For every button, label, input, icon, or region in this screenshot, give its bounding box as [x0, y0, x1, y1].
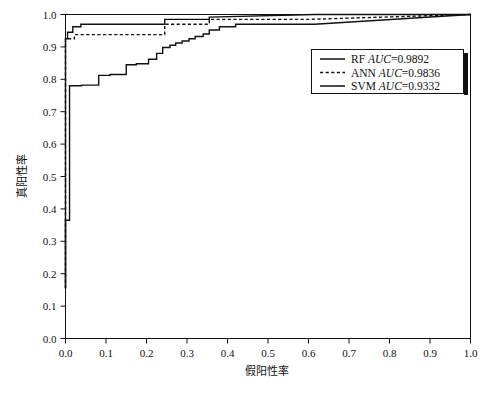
y-tick-label: 0.5	[43, 171, 57, 183]
chart-canvas: 0.00.10.20.30.40.50.60.70.80.91.0 0.00.1…	[0, 0, 502, 394]
legend-items: RF AUC=0.9892ANN AUC=0.9836SVM AUC=0.933…	[320, 53, 440, 92]
x-axis-title: 假阳性率	[245, 364, 289, 378]
x-tick-label: 1.0	[464, 347, 478, 359]
x-tick-label: 0.6	[302, 347, 316, 359]
x-tick-label: 0.3	[180, 347, 194, 359]
y-tick-label: 0.8	[43, 73, 57, 85]
y-tick-label: 0.4	[43, 203, 57, 215]
y-axis-title: 真阳性率	[15, 154, 29, 198]
x-axis-ticks: 0.00.10.20.30.40.50.60.70.80.91.0	[59, 339, 478, 359]
x-tick-label: 0.0	[59, 347, 73, 359]
y-axis-ticks: 0.00.10.20.30.40.50.60.70.80.91.0	[43, 9, 66, 345]
x-tick-label: 0.7	[342, 347, 356, 359]
x-tick-label: 0.4	[221, 347, 235, 359]
x-tick-label: 0.9	[423, 347, 437, 359]
x-tick-label: 0.8	[383, 347, 397, 359]
y-tick-label: 0.9	[43, 41, 57, 53]
x-tick-label: 0.2	[140, 347, 154, 359]
chart-legend: RF AUC=0.9892ANN AUC=0.9836SVM AUC=0.933…	[312, 50, 469, 96]
x-tick-label: 0.5	[261, 347, 275, 359]
y-tick-label: 1.0	[43, 9, 57, 21]
legend-label-rf: RF AUC=0.9892	[351, 53, 429, 65]
y-tick-label: 0.3	[43, 235, 57, 247]
legend-label-ann: ANN AUC=0.9836	[351, 67, 440, 79]
legend-shadow	[464, 53, 468, 95]
x-tick-label: 0.1	[99, 347, 113, 359]
y-tick-label: 0.6	[43, 138, 57, 150]
roc-chart-figure: 0.00.10.20.30.40.50.60.70.80.91.0 0.00.1…	[0, 0, 502, 394]
y-tick-label: 0.2	[43, 268, 57, 280]
y-tick-label: 0.0	[43, 333, 57, 345]
legend-label-svm: SVM AUC=0.9332	[351, 80, 440, 92]
y-tick-label: 0.1	[43, 300, 57, 312]
y-tick-label: 0.7	[43, 106, 57, 118]
